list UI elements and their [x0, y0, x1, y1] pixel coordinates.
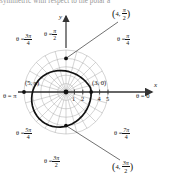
theta-eq-text: θ =: [114, 129, 122, 136]
point-5-pi-label: (5, π): [25, 80, 39, 87]
callout-point-4-3pi-over-2: (4, 3π2): [112, 160, 133, 174]
theta-eq-text: θ =: [44, 30, 52, 37]
theta-3pi-over-2-label: θ =3π2: [44, 155, 60, 169]
theta-7pi-over-4-label: θ =7π4: [114, 127, 130, 141]
tick-label-5: 5: [106, 96, 109, 102]
tick-label-2: 2: [81, 96, 84, 102]
fraction-7pi-over-4: 7π4: [122, 127, 130, 141]
tick-label-1: 1: [72, 96, 75, 102]
right-paren: ): [127, 10, 130, 17]
fraction-3pi-over-4: 3π4: [24, 33, 32, 47]
theta-pi-over-4-label: θ =π4: [117, 33, 130, 47]
fraction-pi-over-4: π4: [125, 33, 130, 47]
theta-eq-text: θ =: [16, 129, 24, 136]
theta-eq-text: θ =: [44, 157, 52, 164]
fraction-5pi-over-4: 5π4: [24, 127, 32, 141]
theta-pi-over-2-label: θ =π2: [44, 28, 57, 42]
point-5-pi-dot: [22, 90, 26, 94]
right-paren: ): [130, 163, 133, 170]
point-4-pi-over-2-dot: [64, 57, 68, 61]
left-paren: (: [112, 10, 115, 17]
y-axis-label: y: [59, 14, 62, 21]
callout-point-4-pi-over-2: (4, π2): [112, 7, 130, 21]
point-4-3pi-over-2-dot: [64, 124, 68, 128]
x-axis-label: x: [154, 82, 157, 89]
left-paren: (: [112, 163, 115, 170]
theta-0-label: θ = 0: [136, 93, 149, 100]
theta-eq-text: θ =: [16, 35, 24, 42]
fraction-3pi-over-2: 3π2: [122, 160, 130, 174]
point-3-0-dot: [89, 90, 93, 94]
fraction-pi-over-2: π2: [52, 28, 57, 42]
polar-graph-figure: symmetric with respect to the polar a: [0, 0, 175, 183]
theta-pi-label: θ = π: [3, 93, 17, 100]
origin-dot: [64, 90, 69, 95]
theta-5pi-over-4-label: θ =5π4: [16, 127, 32, 141]
fraction-3pi-over-2: 3π2: [52, 155, 60, 169]
theta-eq-text: θ =: [117, 35, 125, 42]
point-3-0-label: (3, 0): [92, 80, 106, 87]
tick-label-4: 4: [98, 96, 101, 102]
theta-3pi-over-4-label: θ =3π4: [16, 33, 32, 47]
